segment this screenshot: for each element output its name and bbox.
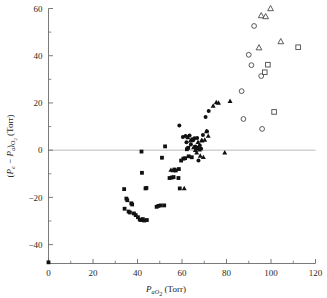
point-filled-square: [130, 203, 134, 207]
point-open-triangle: [278, 39, 284, 44]
point-filled-square: [145, 186, 149, 190]
series-filled-square: [47, 137, 200, 264]
point-open-square: [266, 62, 271, 67]
y-axis-title: (Pe − Pa)O2 (Torr): [5, 115, 18, 178]
y-tick-label: 60: [34, 4, 44, 14]
point-open-circle: [260, 127, 265, 132]
point-filled-circle: [184, 140, 188, 144]
point-open-triangle: [256, 45, 262, 50]
point-open-circle: [249, 63, 254, 68]
point-open-circle: [239, 89, 244, 94]
x-tick-label: 100: [264, 268, 278, 278]
x-tick-label: 0: [46, 268, 51, 278]
point-filled-square: [177, 176, 181, 180]
scatter-plot-figure: 020406080100120 −40−200204060 PaO2 (Torr…: [0, 0, 327, 298]
point-filled-square: [162, 204, 166, 208]
x-tick-label: 120: [309, 268, 323, 278]
point-filled-square: [160, 156, 164, 160]
point-open-triangle: [268, 6, 274, 11]
y-tick-label: −40: [28, 240, 43, 250]
series-open-square: [262, 45, 300, 114]
x-tick-label: 80: [222, 268, 232, 278]
point-open-circle: [241, 117, 246, 122]
series-open-circle: [239, 24, 264, 132]
data-points: [47, 6, 301, 265]
point-filled-square: [172, 175, 176, 179]
svg-text:PaO2 (Torr): PaO2 (Torr): [145, 284, 186, 297]
point-filled-circle: [204, 115, 208, 119]
point-filled-circle: [207, 109, 211, 113]
point-filled-square: [145, 218, 149, 222]
point-filled-circle: [189, 143, 193, 147]
point-filled-square: [47, 260, 51, 264]
point-filled-square: [122, 187, 126, 191]
x-tick-label: 60: [178, 268, 188, 278]
series-filled-circle: [177, 109, 210, 163]
point-filled-square: [178, 187, 182, 191]
point-filled-square: [177, 167, 181, 171]
x-axis-tick-labels: 020406080100120: [46, 268, 323, 278]
plot-canvas: 020406080100120 −40−200204060 PaO2 (Torr…: [0, 0, 327, 298]
point-filled-square: [140, 171, 144, 175]
y-tick-label: 20: [34, 98, 44, 108]
point-filled-square: [163, 144, 167, 148]
svg-text:(Pe − Pa)O2 (Torr): (Pe − Pa)O2 (Torr): [5, 115, 18, 178]
y-axis-tick-labels: −40−200204060: [28, 4, 43, 250]
point-open-circle: [252, 24, 257, 29]
y-tick-label: 40: [34, 51, 44, 61]
x-tick-label: 40: [133, 268, 143, 278]
point-filled-triangle: [228, 98, 233, 102]
point-filled-triangle: [206, 133, 211, 137]
point-filled-circle: [195, 136, 199, 140]
point-filled-square: [190, 155, 194, 159]
point-filled-square: [186, 146, 190, 150]
point-filled-triangle: [222, 150, 227, 154]
point-filled-circle: [196, 159, 200, 163]
point-filled-circle: [177, 124, 181, 128]
point-filled-square: [125, 198, 129, 202]
point-filled-square: [159, 204, 163, 208]
point-open-circle: [246, 52, 251, 57]
series-open-triangle: [256, 6, 284, 50]
x-tick-label: 20: [89, 268, 99, 278]
point-open-square: [272, 110, 277, 115]
point-open-square: [296, 45, 301, 50]
point-filled-square: [123, 207, 127, 211]
y-tick-label: 0: [38, 145, 43, 155]
point-filled-square: [183, 156, 187, 160]
point-filled-square: [140, 150, 144, 154]
point-filled-square: [128, 211, 132, 215]
x-axis-title: PaO2 (Torr): [145, 284, 186, 297]
point-open-triangle: [258, 13, 264, 18]
y-tick-label: −20: [28, 193, 43, 203]
point-open-square: [262, 70, 267, 75]
point-filled-circle: [201, 133, 205, 137]
point-filled-triangle: [182, 186, 187, 190]
